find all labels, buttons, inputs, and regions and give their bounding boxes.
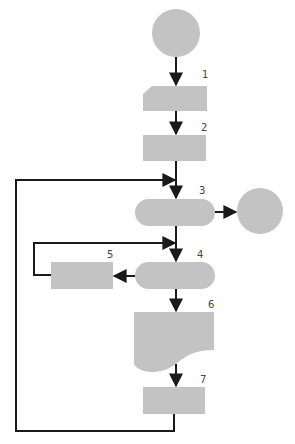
end-circle [237,188,283,234]
node-3-label: 3 [199,186,205,196]
node-4-label: 4 [197,250,203,260]
node-7-process [143,387,205,414]
start-circle [152,9,200,57]
node-4-terminal [135,262,215,289]
node-2-label: 2 [201,123,207,133]
node-3-terminal [135,199,215,226]
node-6-label: 6 [208,300,214,310]
node-1-label: 1 [202,70,208,80]
node-5-process [51,262,113,289]
node-2-process [143,135,206,161]
flowchart-canvas [0,0,295,444]
node-1-manual-input [143,86,207,111]
node-6-document [134,312,214,372]
node-7-label: 7 [200,375,206,385]
node-5-label: 5 [107,250,113,260]
